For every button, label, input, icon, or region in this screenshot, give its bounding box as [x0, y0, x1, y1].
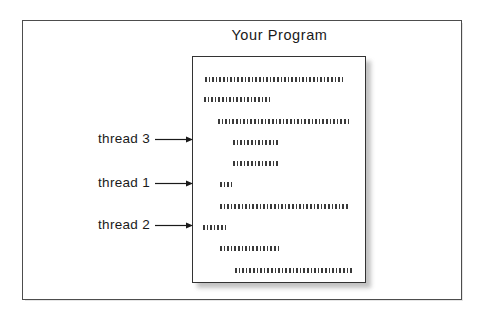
code-line: [220, 204, 348, 209]
thread-label-thread-3: thread 3: [88, 131, 150, 146]
code-line: [205, 77, 344, 82]
code-line: [235, 268, 353, 273]
code-line: [204, 97, 272, 102]
code-line: [220, 246, 280, 251]
code-line: [203, 225, 228, 230]
arrow-icon-thread-2: [155, 221, 193, 230]
arrow-icon-thread-1: [155, 179, 193, 188]
thread-label-thread-1: thread 1: [88, 175, 150, 190]
arrow-icon-thread-3: [155, 135, 193, 144]
code-line: [218, 119, 349, 124]
code-line: [233, 140, 280, 145]
code-line: [233, 161, 280, 166]
program-page: [192, 56, 366, 283]
code-line: [220, 182, 232, 187]
thread-label-thread-2: thread 2: [88, 217, 150, 232]
page-title: Your Program: [192, 27, 367, 43]
thread-diagram-figure: Your Program thread 3thread 1thread 2: [0, 0, 482, 318]
